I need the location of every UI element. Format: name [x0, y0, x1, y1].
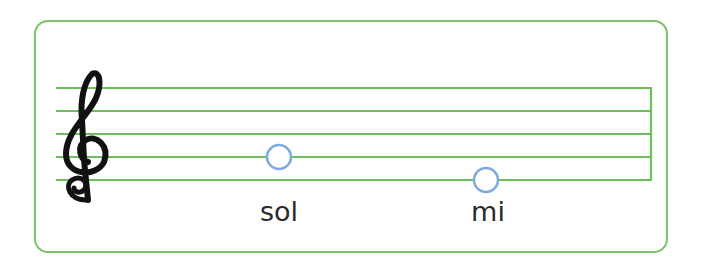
- note-label-sol: sol: [260, 196, 298, 227]
- note-mi: [474, 168, 498, 192]
- note-sol: [267, 145, 291, 169]
- staff-lines: [56, 87, 651, 181]
- music-staff: [0, 0, 706, 262]
- note-label-mi: mi: [471, 196, 505, 227]
